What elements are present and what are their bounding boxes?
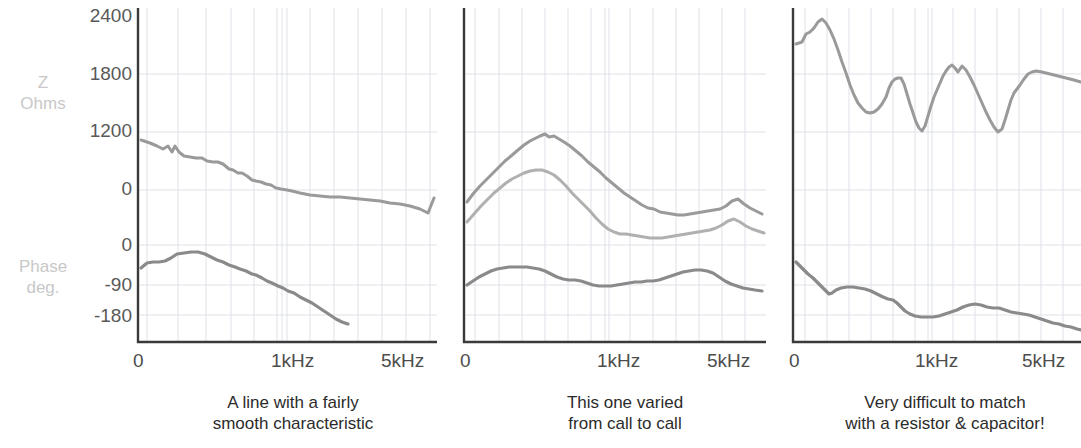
panel-2-phase-curve [467, 267, 762, 291]
panel-3-caption: Very difficult to match with a resistor … [810, 392, 1080, 434]
panel-3-impedance-curve [796, 19, 1081, 132]
panel-2-impedance-curve-b [467, 170, 764, 238]
panel-2-x-tick-1khz: 1kHz [597, 350, 640, 372]
panel-3-phase-curve [796, 262, 1081, 330]
panel-3-gridlines [793, 8, 1081, 342]
panel-2-gridlines [464, 8, 766, 342]
panel-2-impedance-curve-a [467, 134, 762, 215]
panel-2-axis [464, 8, 766, 342]
panel-1-x-tick-1khz: 1kHz [271, 350, 314, 372]
panel-3-x-tick-0: 0 [789, 350, 800, 372]
panel-2-caption: This one varied from call to call [500, 392, 750, 434]
panel-1-caption: A line with a fairly smooth characterist… [168, 392, 418, 434]
panel-3-axis [793, 8, 1081, 342]
panel-2-x-tick-0: 0 [460, 350, 471, 372]
panel-1-x-tick-0: 0 [133, 350, 144, 372]
panel-1-phase-curve [141, 252, 348, 324]
panel-1-plot [138, 8, 437, 342]
panel-1-x-tick-5khz: 5kHz [381, 350, 424, 372]
panels-svg [0, 0, 1081, 448]
panel-3-x-tick-1khz: 1kHz [915, 350, 958, 372]
panel-2-plot [464, 8, 766, 342]
impedance-figure: Z Ohms Phase deg. 2400 1800 1200 0 0 -90… [0, 0, 1081, 448]
panel-3-x-tick-5khz: 5kHz [1022, 350, 1065, 372]
panel-2-x-tick-5khz: 5kHz [707, 350, 750, 372]
panel-3-plot [793, 8, 1081, 342]
